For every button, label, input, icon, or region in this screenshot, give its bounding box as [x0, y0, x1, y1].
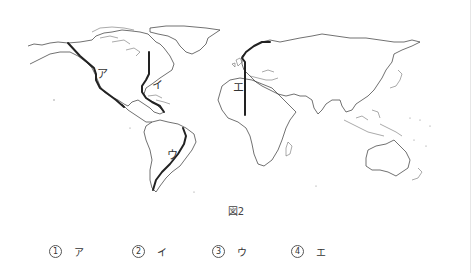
map-label-u: ウ: [167, 150, 178, 161]
map-label-i: イ: [152, 80, 163, 91]
world-map: ア イ ウ エ: [0, 0, 472, 200]
choice-label-3: ウ: [237, 247, 247, 258]
choice-1[interactable]: 1ア: [49, 244, 84, 259]
page-edge-divider: [470, 0, 471, 273]
route-e-line: [242, 42, 270, 115]
choice-3[interactable]: 3ウ: [212, 244, 247, 259]
world-map-outline: [0, 0, 472, 200]
map-label-e: エ: [233, 82, 244, 93]
choice-2[interactable]: 2イ: [132, 244, 167, 259]
figure-caption: 図2: [0, 203, 472, 218]
choice-label-4: エ: [316, 247, 326, 258]
africa-coast: [218, 78, 296, 166]
choice-label-1: ア: [74, 247, 84, 258]
route-a-line: [68, 43, 124, 107]
eurasia-coast: [242, 34, 420, 114]
choice-4[interactable]: 4エ: [291, 244, 326, 259]
map-label-a: ア: [97, 69, 108, 80]
greenland-coast: [150, 26, 220, 54]
choice-number-1: 1: [49, 245, 62, 258]
choice-label-2: イ: [157, 247, 167, 258]
choice-number-2: 2: [132, 245, 145, 258]
answer-choices: 1ア 2イ 3ウ 4エ: [0, 244, 472, 260]
choice-number-4: 4: [291, 245, 304, 258]
choice-number-3: 3: [212, 245, 225, 258]
australia-coast: [366, 140, 410, 176]
